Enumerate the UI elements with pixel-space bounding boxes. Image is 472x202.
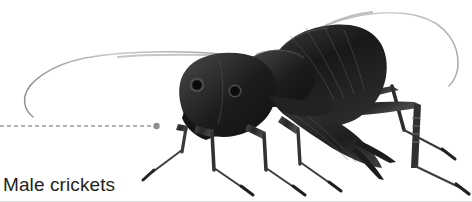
eye-left bbox=[192, 80, 201, 89]
midleg-near-tibia bbox=[264, 134, 266, 170]
midleg-tibia bbox=[298, 130, 300, 164]
foreleg-far-tibia bbox=[182, 128, 186, 152]
figure-caption: Male crickets bbox=[3, 173, 115, 197]
hindleg-near-tibia bbox=[411, 102, 421, 168]
dashed-leader-line bbox=[0, 123, 160, 129]
foreleg-far bbox=[143, 124, 188, 180]
head bbox=[179, 53, 276, 140]
hindleg-far-tarsus bbox=[404, 130, 446, 152]
bottom-divider bbox=[0, 201, 472, 202]
hindleg-far-foot bbox=[442, 149, 455, 159]
foreleg-far-foot bbox=[143, 170, 154, 180]
figure-panel: Male crickets bbox=[0, 0, 472, 202]
midleg-near-foot bbox=[293, 186, 305, 195]
midleg-foot bbox=[329, 182, 341, 191]
cricket-figure-svg bbox=[0, 0, 472, 202]
foreleg-foot bbox=[241, 186, 253, 195]
hindleg-near-tarsus bbox=[415, 166, 461, 188]
midleg-near bbox=[245, 124, 305, 195]
eye-right bbox=[231, 87, 239, 95]
leader-endpoint-dot bbox=[153, 123, 159, 129]
foreleg-tibia bbox=[212, 132, 214, 170]
hindleg-near-foot bbox=[456, 184, 469, 194]
